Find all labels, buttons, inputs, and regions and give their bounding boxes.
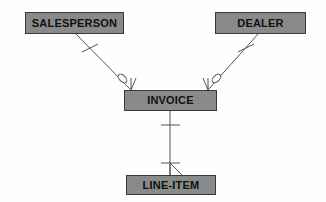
entity-line-item-label: LINE-ITEM — [143, 179, 200, 190]
entity-invoice-label: INVOICE — [147, 95, 194, 106]
connector-dealer-invoice[interactable] — [203, 34, 258, 90]
entity-dealer[interactable]: DEALER — [215, 12, 306, 34]
connector-invoice-line-item[interactable] — [161, 111, 182, 175]
crowsfoot-line-item-prong-1 — [170, 163, 182, 175]
er-diagram-canvas: SALESPERSON DEALER INVOICE LINE-ITEM — [0, 0, 326, 202]
entity-dealer-label: DEALER — [237, 17, 283, 28]
entity-line-item[interactable]: LINE-ITEM — [126, 175, 216, 195]
cardinality-one-tick-salesperson — [82, 44, 98, 52]
crowsfoot-dealer-invoice-prong-1 — [203, 78, 208, 90]
cardinality-zero-oval-invoice-right — [211, 73, 223, 85]
cardinality-zero-oval-invoice-left — [117, 73, 129, 85]
crowsfoot-salesperson-invoice-prong-1 — [131, 78, 136, 90]
entity-salesperson-label: SALESPERSON — [32, 17, 117, 28]
entity-salesperson[interactable]: SALESPERSON — [25, 12, 124, 34]
entity-invoice[interactable]: INVOICE — [124, 90, 217, 111]
connector-salesperson-invoice[interactable] — [76, 34, 136, 90]
cardinality-one-tick-dealer — [238, 44, 254, 52]
